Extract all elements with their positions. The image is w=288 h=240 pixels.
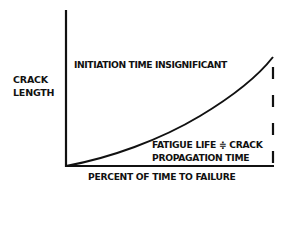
y-axis-label: CRACK LENGTH	[13, 73, 54, 99]
annotation-initiation: INITIATION TIME INSIGNIFICANT	[74, 60, 227, 69]
y-axis-label-line-2: LENGTH	[13, 86, 54, 99]
annotation-fatigue-line-2: PROPAGATION TIME	[152, 152, 263, 165]
y-axis-label-line-1: CRACK	[13, 73, 54, 86]
x-axis-label: PERCENT OF TIME TO FAILURE	[88, 172, 235, 181]
annotation-fatigue-life: FATIGUE LIFE ≑ CRACK PROPAGATION TIME	[152, 139, 263, 164]
annotation-fatigue-line-1: FATIGUE LIFE ≑ CRACK	[152, 139, 263, 152]
